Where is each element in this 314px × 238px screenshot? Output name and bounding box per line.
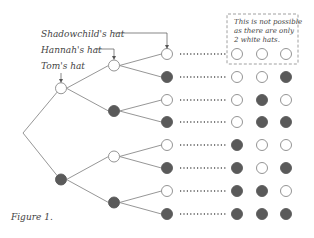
outcome-4-hannah-black-hat	[257, 117, 268, 128]
outcome-8-hannah-black-hat	[257, 209, 268, 220]
hannah-node-black-hat	[109, 106, 120, 117]
hannah-node-white-hat	[109, 60, 120, 71]
edge-hannah-shadowchild	[120, 203, 162, 215]
outcome-3-tom-white-hat	[232, 95, 243, 106]
edge-hannah-shadowchild	[120, 191, 162, 203]
outcome-7-tom-black-hat	[232, 186, 243, 197]
outcome-7-hannah-black-hat	[257, 186, 268, 197]
note-line-1: This is not possible	[234, 18, 302, 26]
arrow-tom-head	[59, 79, 63, 83]
outcome-6-shadowchild-black-hat	[281, 163, 292, 174]
edge-root-tom	[23, 133, 57, 176]
outcome-1-hannah-white-hat	[257, 49, 268, 60]
outcome-4-shadowchild-black-hat	[281, 117, 292, 128]
shadowchild-node-black-hat	[162, 72, 173, 83]
outcome-5-tom-black-hat	[232, 140, 243, 151]
outcome-2-tom-white-hat	[232, 72, 243, 83]
outcome-2-shadowchild-black-hat	[281, 72, 292, 83]
tom-node-black-hat	[56, 174, 67, 185]
edge-hannah-shadowchild	[120, 157, 162, 169]
note-line-2: as there are only	[234, 27, 295, 35]
shadowchild-node-black-hat	[162, 117, 173, 128]
outcome-7-shadowchild-white-hat	[281, 186, 292, 197]
shadowchild-node-white-hat	[162, 186, 173, 197]
outcome-1-tom-white-hat	[232, 49, 243, 60]
edge-hannah-shadowchild	[120, 100, 162, 111]
outcome-1-shadowchild-white-hat	[281, 49, 292, 60]
shadowchild-node-white-hat	[162, 95, 173, 106]
label-hannah: Hannah's hat	[40, 45, 102, 55]
edge-hannah-shadowchild	[120, 111, 162, 122]
outcome-2-hannah-white-hat	[257, 72, 268, 83]
shadowchild-node-white-hat	[162, 140, 173, 151]
outcome-4-tom-white-hat	[232, 117, 243, 128]
outcome-3-hannah-black-hat	[257, 95, 268, 106]
outcome-3-shadowchild-white-hat	[281, 95, 292, 106]
edge-tom-hannah	[67, 157, 109, 180]
shadowchild-node-black-hat	[162, 209, 173, 220]
outcome-5-shadowchild-white-hat	[281, 140, 292, 151]
edge-root-tom	[23, 92, 57, 133]
hat-probability-tree: Shadowchild's hat Hannah's hat Tom's hat…	[0, 0, 314, 238]
tom-node-white-hat	[56, 83, 67, 94]
hannah-node-black-hat	[109, 197, 120, 208]
edge-tom-hannah	[67, 88, 109, 111]
shadowchild-node-black-hat	[162, 163, 173, 174]
outcome-8-tom-black-hat	[232, 209, 243, 220]
outcome-6-tom-black-hat	[232, 163, 243, 174]
outcome-8-shadowchild-black-hat	[281, 209, 292, 220]
hannah-node-white-hat	[109, 151, 120, 162]
edge-hannah-shadowchild	[120, 54, 162, 66]
edge-tom-hannah	[67, 180, 109, 203]
arrow-hannah-head	[112, 56, 116, 60]
label-shadowchild: Shadowchild's hat	[41, 29, 125, 39]
note-line-3: 2 white hats.	[233, 36, 280, 44]
figure-caption: Figure 1.	[10, 212, 53, 222]
label-tom: Tom's hat	[41, 61, 85, 71]
shadowchild-node-white-hat	[162, 49, 173, 60]
edge-hannah-shadowchild	[120, 145, 162, 157]
outcome-6-hannah-white-hat	[257, 163, 268, 174]
edge-hannah-shadowchild	[120, 66, 162, 78]
outcome-5-hannah-white-hat	[257, 140, 268, 151]
